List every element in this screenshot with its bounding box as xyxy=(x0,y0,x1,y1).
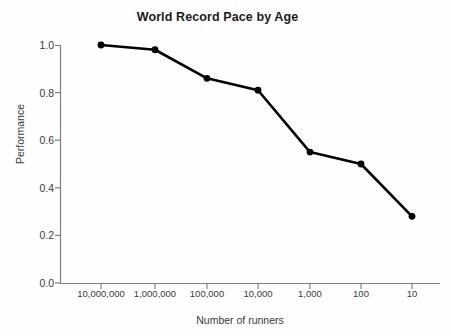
x-axis xyxy=(61,284,441,290)
data-point-marker: 1,000: 0.55 xyxy=(307,149,314,156)
data-point-marker: 10,000,000: 1 xyxy=(98,42,105,49)
chart-figure: World Record Pace by Age Performance Num… xyxy=(0,0,451,336)
data-point-marker: 10,000: 0.81 xyxy=(255,87,262,94)
data-point-marker: 10: 0.28 xyxy=(409,213,416,220)
series-polyline xyxy=(101,45,412,216)
data-point-marker: 1,000,000: 0.98 xyxy=(152,46,159,53)
data-point-marker: 100: 0.5 xyxy=(358,161,365,168)
y-axis xyxy=(55,45,61,284)
plot-area: 10,000,000: 11,000,000: 0.98100,000: 0.8… xyxy=(0,0,451,336)
data-point-marker: 100,000: 0.86 xyxy=(204,75,211,82)
data-series-line: 10,000,000: 11,000,000: 0.98100,000: 0.8… xyxy=(98,42,416,220)
